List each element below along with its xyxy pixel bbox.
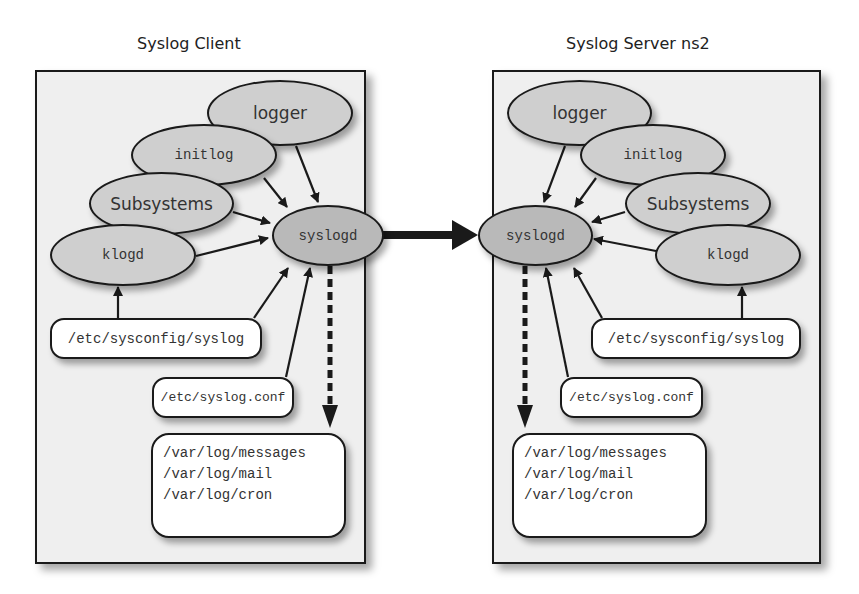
arrow-subsystems-to-syslogd-server	[592, 212, 625, 222]
client-file-syslog-conf: /etc/syslog.conf	[152, 377, 294, 418]
arrow-sysconfig-to-syslogd-server	[574, 268, 602, 318]
file-label: /etc/syslog.conf	[569, 390, 694, 405]
client-dashed-arrowhead	[322, 405, 338, 428]
node-label: initlog	[175, 147, 234, 163]
file-label: /etc/syslog.conf	[161, 390, 286, 405]
log-file-mail: /var/log/mail	[524, 464, 633, 485]
server-dashed-arrowhead	[517, 405, 533, 428]
server-node-syslogd: syslogd	[478, 205, 593, 266]
client-node-syslogd: syslogd	[272, 205, 384, 266]
edges-layer	[0, 0, 859, 594]
arrow-klogd-to-syslogd	[196, 238, 268, 256]
arrow-initlog-to-syslogd	[264, 178, 287, 207]
server-file-syslog-conf: /etc/syslog.conf	[560, 377, 703, 418]
arrow-subsystems-to-syslogd	[233, 212, 270, 223]
arrow-initlog-to-syslogd-server	[575, 178, 596, 207]
arrow-sysconfig-to-syslogd	[254, 268, 288, 318]
node-label: logger	[552, 103, 606, 123]
log-file-messages: /var/log/messages	[524, 443, 667, 464]
server-node-klogd: klogd	[655, 224, 801, 286]
arrow-client-to-server-head	[452, 220, 478, 250]
client-node-klogd: klogd	[50, 224, 196, 286]
node-label: syslogd	[506, 228, 565, 244]
log-file-cron: /var/log/cron	[524, 485, 633, 506]
server-file-logs: /var/log/messages /var/log/mail /var/log…	[512, 433, 707, 538]
log-file-cron: /var/log/cron	[163, 485, 272, 506]
log-file-mail: /var/log/mail	[163, 464, 272, 485]
arrow-klogd-to-syslogd-server	[594, 239, 656, 251]
server-file-sysconfig: /etc/sysconfig/syslog	[591, 318, 801, 359]
arrow-logger-to-syslogd	[296, 146, 318, 202]
node-label: Subsystems	[647, 194, 750, 214]
arrow-syslogconf-to-syslogd	[286, 268, 310, 377]
node-label: logger	[253, 103, 307, 123]
node-label: syslogd	[299, 228, 358, 244]
file-label: /etc/sysconfig/syslog	[608, 331, 784, 347]
log-file-messages: /var/log/messages	[163, 443, 306, 464]
node-label: klogd	[102, 247, 144, 263]
client-file-sysconfig: /etc/sysconfig/syslog	[50, 318, 262, 359]
arrow-logger-to-syslogd-server	[544, 146, 565, 202]
client-file-logs: /var/log/messages /var/log/mail /var/log…	[151, 433, 346, 538]
node-label: klogd	[707, 247, 749, 263]
arrow-syslogconf-to-syslogd-server	[546, 268, 568, 377]
node-label: Subsystems	[110, 194, 213, 214]
node-label: initlog	[624, 147, 683, 163]
file-label: /etc/sysconfig/syslog	[68, 331, 244, 347]
